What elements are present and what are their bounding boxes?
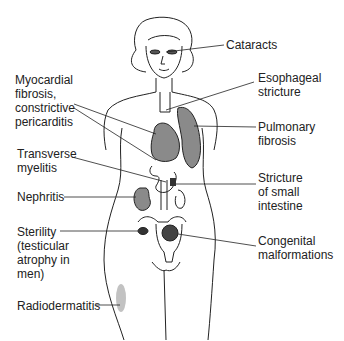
label-transverse-myelitis: Transverse myelitis [17, 147, 77, 175]
intestine-stricture-mark [170, 178, 176, 186]
label-nephritis: Nephritis [17, 190, 64, 204]
label-stricture-small-intestine: Stricture of small intestine [258, 171, 303, 213]
radiodermatitis-patch [116, 284, 126, 312]
kidney-organ [134, 188, 150, 210]
label-cataracts: Cataracts [226, 38, 277, 52]
radiation-effects-diagram: Cataracts Esophageal stricture Myocardia… [0, 0, 344, 341]
lung-organ [177, 107, 200, 168]
label-esophageal-stricture: Esophageal stricture [258, 71, 321, 99]
label-congenital-malformations: Congenital malformations [258, 234, 333, 262]
fetus-organ [162, 225, 178, 241]
label-radiodermatitis: Radiodermatitis [17, 299, 100, 313]
label-pulmonary-fibrosis: Pulmonary fibrosis [258, 120, 315, 148]
torso-outline [104, 78, 156, 150]
ovary-organ [138, 228, 148, 235]
label-sterility: Sterility (testicular atrophy in men) [17, 225, 70, 281]
leader-lines [60, 45, 256, 305]
kidney-right-outline [175, 190, 185, 208]
heart-organ [151, 123, 179, 161]
label-myocardial-fibrosis: Myocardial fibrosis, constrictive perica… [15, 73, 75, 129]
